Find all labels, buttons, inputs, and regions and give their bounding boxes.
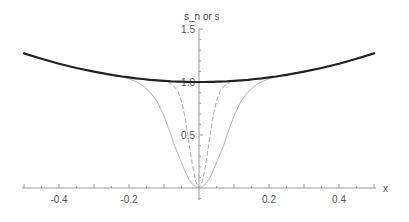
x-tick-label: 0.4 xyxy=(332,194,346,205)
x-tick-label: -0.4 xyxy=(50,194,68,205)
y-axis-label: s_n or s xyxy=(184,11,220,22)
x-tick-label: -0.2 xyxy=(120,194,138,205)
x-tick-label: 0.2 xyxy=(262,194,276,205)
chart: -0.4-0.20.20.4 0.51.01.5 x s_n or s xyxy=(0,0,409,222)
y-tick-label: 1.5 xyxy=(181,24,195,35)
x-axis-label: x xyxy=(383,183,388,194)
axes: -0.4-0.20.20.4 0.51.01.5 xyxy=(22,24,376,205)
y-ticks: 0.51.01.5 xyxy=(181,24,203,199)
